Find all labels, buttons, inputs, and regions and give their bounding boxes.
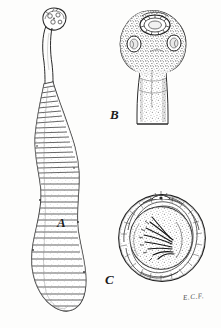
- figure-a-whole-worm: [20, 8, 100, 320]
- figure-c-egg: [118, 191, 208, 284]
- figure-a-scolex: [43, 8, 66, 30]
- figure-label-c: C: [105, 273, 114, 286]
- figure-b-scolex-enlarged: [115, 6, 195, 126]
- figure-a-neck: [43, 26, 53, 84]
- figure-label-a: A: [57, 216, 66, 229]
- figure-label-b: B: [110, 108, 119, 121]
- figure-a-proglottid-chain: [20, 80, 100, 320]
- illustration-plate: A B C E.C.F.: [0, 0, 221, 328]
